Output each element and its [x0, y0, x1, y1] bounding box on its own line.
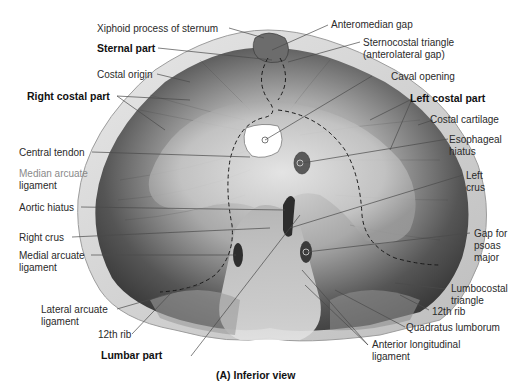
label-quadratus-lumborum: Quadratus lumborum	[406, 322, 500, 334]
label-right-costal-part: Right costal part	[27, 91, 110, 103]
label-anterior-longitudinal-line1: Anterior longitudinal	[372, 339, 460, 351]
label-medial-arcuate-line2: ligament	[19, 262, 57, 274]
label-lumbocostal-line1: Lumbocostal	[451, 283, 508, 295]
label-central-tendon: Central tendon	[19, 147, 85, 159]
label-left-crus-line2: crus	[466, 182, 485, 194]
label-caval-opening: Caval opening	[391, 71, 455, 83]
xiphoid-process	[253, 33, 288, 63]
label-12th-rib-right: 12th rib	[432, 306, 465, 318]
label-costal-cartilage: Costal cartilage	[430, 114, 499, 126]
label-gap-psoas-line1: Gap for	[474, 228, 507, 240]
label-gap-psoas-line3: major	[474, 252, 499, 264]
label-anteromedian-gap: Anteromedian gap	[331, 19, 413, 31]
label-sternocostal-line2: (anterolateral gap)	[363, 49, 445, 61]
label-gap-psoas-line2: psoas	[474, 240, 501, 252]
label-costal-origin: Costal origin	[97, 69, 153, 81]
label-median-arcuate-line2: ligament	[19, 180, 57, 192]
label-lateral-arcuate-line2: ligament	[41, 316, 79, 328]
figure-caption: (A) Inferior view	[216, 369, 295, 381]
caval-opening	[244, 124, 282, 157]
label-12th-rib-left: 12th rib	[98, 329, 131, 341]
label-esophageal-line1: Esophageal	[449, 134, 502, 146]
label-lateral-arcuate-line1: Lateral arcuate	[41, 304, 108, 316]
label-median-arcuate-line1: Median arcuate	[19, 168, 88, 180]
label-lumbar-part: Lumbar part	[101, 350, 162, 362]
label-sternal-part: Sternal part	[97, 43, 155, 55]
label-left-crus-line1: Left	[466, 170, 483, 182]
label-lumbocostal-line2: triangle	[451, 295, 484, 307]
label-aortic-hiatus: Aortic hiatus	[19, 202, 74, 214]
label-right-crus: Right crus	[19, 232, 64, 244]
label-anterior-longitudinal-line2: ligament	[372, 351, 410, 363]
label-left-costal-part: Left costal part	[410, 93, 485, 105]
label-sternocostal-line1: Sternocostal triangle	[363, 37, 454, 49]
label-esophageal-line2: hiatus	[449, 146, 476, 158]
label-xiphoid-process: Xiphoid process of sternum	[97, 23, 218, 35]
label-medial-arcuate-line1: Medial arcuate	[19, 250, 85, 262]
